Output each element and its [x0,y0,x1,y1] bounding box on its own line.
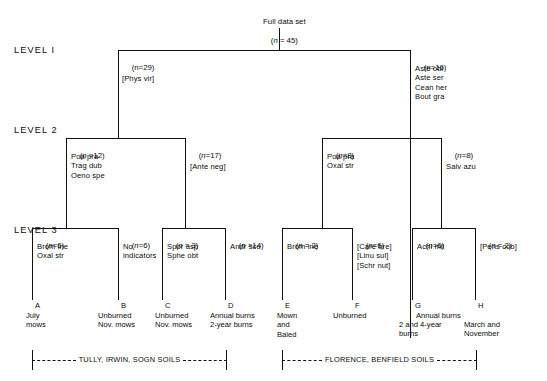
terminal-treatment-c: Unburned Nov. mows [155,311,192,330]
root-stem [279,28,280,50]
terminal-letter-d: D [228,301,233,310]
level3-node-d-branch [225,228,226,300]
root-n-label: (n = 45) [271,36,298,45]
level2-node-c-indicators: Poa pra Oxal str [327,152,354,171]
level1-left-indicators: [Phys vir] [122,74,154,83]
level1-right-indicators: Aste obl Aste ser Cean her Bout gra [415,64,447,102]
level3-cd-connector [162,228,225,229]
level3-ef-connector [282,228,353,229]
level2-left-connector [66,138,185,139]
level1-left-n: (n=29) [132,63,155,72]
dendrogram-figure: Full data set (n = 45) LEVEL I LEVEL 2 L… [0,0,547,381]
root-title: Full data set [263,17,305,26]
level3-node-b-branch [118,228,119,300]
level3-node-f-branch [352,228,353,300]
soil-group-label-2: FLORENCE, BENFIELD SOILS [322,355,437,365]
terminal-treatment-b: Unburned Nov. mows [98,311,135,330]
level1-left-branch [118,50,119,138]
terminal-letter-f: F [355,301,360,310]
level3-node-h-branch [475,228,476,300]
level-label-1: LEVEL I [14,45,55,55]
terminal-treatment-a: July mows [26,311,46,330]
root-node-label: Full data set (n = 45) [225,7,335,56]
bracket-dash-row: TULLY, IRWIN, SOGN SOILS [32,355,227,365]
level3-node-g-branch [412,228,413,300]
bracket-dash-left [282,360,322,361]
level3-gh-connector [412,228,475,229]
level3-node-d-indicators: Andr sco [230,242,261,251]
level3-node-a-indicators: Brom ine Oxal str [37,242,68,261]
terminal-treatment-e: Mown and Baled [277,311,297,339]
terminal-letter-b: B [121,301,126,310]
level2-node-b-n: (n=17) [199,151,222,160]
level2-node-a-indicators: Poa pra Trag dub Oeno spe [71,152,105,180]
level1-connector [118,50,411,51]
level3-node-e-indicators: Brom ine [287,242,318,251]
terminal-treatment-g: 2 and 4-year burns [399,320,442,339]
terminal-letter-c: C [165,301,170,310]
level3-node-g-indicators: Achi mil [417,242,444,251]
terminal-treatment-d: Annual burns 2-year burns [210,311,255,330]
terminal-treatment-g-heading: Annual burns [416,311,461,320]
level-label-2: LEVEL 2 [14,125,58,135]
level3-ab-connector [32,228,119,229]
terminal-treatment-f: Unburned [333,311,366,320]
level2-node-d-branch [441,138,442,228]
terminal-letter-h: H [478,301,483,310]
bracket-dash-right [183,360,227,361]
soil-group-bracket-1: TULLY, IRWIN, SOGN SOILS [32,350,227,370]
level2-node-a-branch [66,138,67,228]
terminal-treatment-h: March and November [464,320,500,339]
level3-node-c-indicators: Spor asp Sphe obt [167,242,198,261]
terminal-letter-e: E [285,301,290,310]
bracket-dash-right [437,360,477,361]
level2-node-b-indicators: [Ante neg] [190,162,226,171]
level1-right-branch [410,50,411,338]
terminal-letter-a: A [35,301,40,310]
level3-node-a-branch [32,228,33,300]
level3-node-f-indicators: [Care bre] [Linu sul] [Schr nut] [357,242,392,270]
bracket-dash-left [32,360,76,361]
bracket-dash-row: FLORENCE, BENFIELD SOILS [282,355,477,365]
level3-node-h-indicators: [Pens cob] [480,242,517,251]
level2-node-c-branch [322,138,323,228]
level2-node-d-n: (n=8) [455,151,473,160]
level3-node-c-branch [162,228,163,300]
terminal-letter-g: G [415,301,421,310]
level2-right-connector [322,138,441,139]
level3-node-b-indicators: No indicators [123,242,157,261]
soil-group-label-1: TULLY, IRWIN, SOGN SOILS [76,355,184,365]
level2-node-d-indicators: Salv azu [446,162,476,171]
soil-group-bracket-2: FLORENCE, BENFIELD SOILS [282,350,477,370]
level3-node-e-branch [282,228,283,300]
level2-node-b-branch [185,138,186,228]
